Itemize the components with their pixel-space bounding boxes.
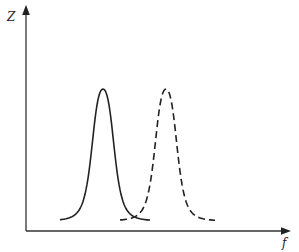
dashed-resonance-curve — [120, 89, 215, 220]
x-axis-label: f — [282, 236, 286, 250]
y-axis-label: Z — [7, 10, 15, 24]
chart-canvas — [0, 0, 299, 252]
solid-resonance-curve — [60, 89, 150, 220]
